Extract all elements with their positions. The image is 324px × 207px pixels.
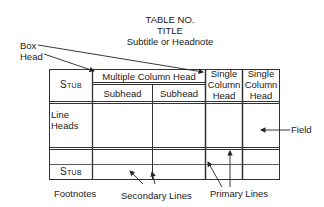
primary-lines-label: Primary Lines [210, 188, 268, 199]
single-column-head-2: Single Column Head [243, 68, 279, 101]
subhead-1: Subhead [93, 88, 152, 99]
single-column-head-1: Single Column Head [206, 68, 242, 101]
field-label: Field [291, 124, 312, 135]
stub-footer: Stub [50, 166, 92, 177]
table-diagram-lines [0, 0, 324, 207]
stub-head: Stub [50, 79, 92, 90]
line-heads: Line Heads [51, 109, 78, 131]
footnotes-label: Footnotes [54, 188, 96, 199]
subhead-2: Subhead [153, 88, 205, 99]
secondary-lines-label: Secondary Lines [121, 190, 192, 201]
multiple-column-head: Multiple Column Head [93, 71, 205, 82]
